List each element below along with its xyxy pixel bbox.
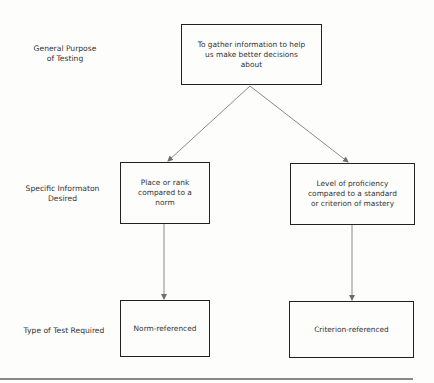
norm-test-box: Norm-referenced [120,300,210,357]
purpose-box: To gather information to help us make be… [181,24,322,85]
bottom-rule-divider [0,378,413,380]
arrow-to-criterion-info [250,86,348,162]
criterion-info-box: Level of proficiency compared to a stand… [290,163,415,225]
norm-info-text: Place or rank compared to a norm [138,178,192,208]
norm-test-text: Norm-referenced [134,324,197,334]
criterion-test-box: Criterion-referenced [289,301,414,358]
criterion-test-text: Criterion-referenced [314,325,389,335]
purpose-text: To gather information to help us make be… [198,40,306,70]
norm-info-box: Place or rank compared to a norm [120,162,210,224]
criterion-info-text: Level of proficiency compared to a stand… [308,179,397,209]
arrow-to-norm-info [168,86,250,161]
